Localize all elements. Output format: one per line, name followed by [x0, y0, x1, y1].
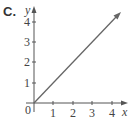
x-tick-2: 2 [70, 107, 76, 119]
origin-label: 0 [25, 104, 31, 116]
y-tick-4: 4 [24, 16, 30, 28]
x-tick-3: 3 [89, 107, 95, 119]
y-tick-3: 3 [24, 36, 30, 48]
y-axis-arrow-icon [32, 6, 37, 13]
x-tick-4: 4 [109, 107, 115, 119]
y-tick-1: 1 [24, 77, 30, 89]
y-tick-2: 2 [24, 56, 30, 68]
data-line [34, 16, 117, 103]
x-axis-label: x [122, 106, 127, 118]
x-tick-1: 1 [50, 107, 56, 119]
chart-plot [0, 0, 131, 120]
